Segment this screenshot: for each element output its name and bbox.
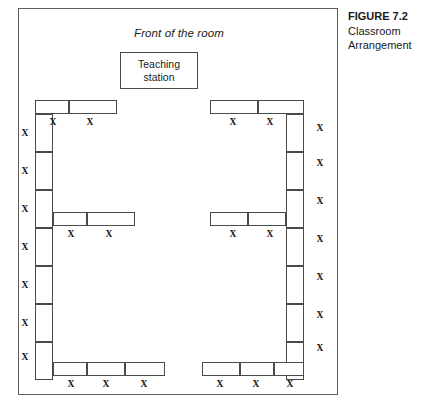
seat-left-col-5: X (21, 281, 29, 291)
seat-left-col-3: X (21, 205, 29, 215)
desk-top-left-2 (69, 100, 117, 114)
desk-right-col-3 (286, 190, 304, 228)
seat-right-col-3: X (316, 197, 324, 207)
desk-mid-left-2 (87, 212, 135, 226)
seat-bottom-left-2: X (102, 380, 110, 390)
desk-top-right-2 (258, 100, 304, 114)
seat-bottom-left-1: X (67, 380, 75, 390)
desk-left-col-2 (35, 152, 53, 190)
desk-top-right-1 (210, 100, 258, 114)
room-frame: Front of the room Teaching station XXXXX… (18, 8, 338, 395)
desk-bottom-right-1 (202, 362, 240, 376)
seat-mid-left-1: X (67, 230, 75, 240)
teaching-station-line-2: station (144, 71, 175, 83)
seat-top-left-1: X (49, 118, 57, 128)
seat-right-col-1: X (316, 124, 324, 134)
desk-left-col-7 (35, 342, 53, 380)
seat-mid-right-2: X (266, 230, 274, 240)
seat-mid-right-1: X (229, 230, 237, 240)
seat-bottom-right-3: X (286, 380, 294, 390)
desk-mid-right-2 (248, 212, 286, 226)
seat-right-col-2: X (316, 159, 324, 169)
desk-top-left-1 (35, 100, 69, 114)
seat-right-col-7: X (316, 344, 324, 354)
desk-right-col-5 (286, 266, 304, 304)
desk-right-col-4 (286, 228, 304, 266)
seat-left-col-4: X (21, 243, 29, 253)
figure-caption-line-2: Arrangement (348, 38, 432, 53)
seat-top-right-1: X (229, 118, 237, 128)
figure-caption-line-1: Classroom (348, 24, 432, 39)
desk-bottom-left-1 (53, 362, 87, 376)
desk-bottom-right-2 (240, 362, 274, 376)
seat-left-col-6: X (21, 319, 29, 329)
seat-right-col-5: X (316, 273, 324, 283)
desk-right-col-1 (286, 114, 304, 152)
seat-top-right-2: X (266, 118, 274, 128)
desk-bottom-left-2 (87, 362, 125, 376)
figure-caption: FIGURE 7.2 Classroom Arrangement (348, 9, 432, 53)
figure-7-2-classroom-arrangement: Front of the room Teaching station XXXXX… (0, 0, 434, 411)
seat-left-col-1: X (21, 129, 29, 139)
seat-right-col-6: X (316, 311, 324, 321)
desk-mid-right-1 (210, 212, 248, 226)
seat-bottom-right-1: X (216, 380, 224, 390)
teaching-station-line-1: Teaching (138, 58, 180, 70)
seat-left-col-2: X (21, 167, 29, 177)
desk-right-col-2 (286, 152, 304, 190)
desk-left-col-3 (35, 190, 53, 228)
seat-bottom-left-3: X (140, 380, 148, 390)
desk-left-col-6 (35, 304, 53, 342)
seat-mid-left-2: X (105, 230, 113, 240)
seat-left-col-7: X (21, 353, 29, 363)
seat-bottom-right-2: X (252, 380, 260, 390)
desk-right-col-6 (286, 304, 304, 342)
desk-mid-left-1 (53, 212, 87, 226)
desk-bottom-right-3 (274, 362, 304, 376)
desk-left-col-4 (35, 228, 53, 266)
teaching-station-box: Teaching station (120, 52, 198, 89)
seat-right-col-4: X (316, 235, 324, 245)
front-of-room-label: Front of the room (19, 27, 339, 39)
figure-caption-title: FIGURE 7.2 (348, 9, 432, 24)
desk-left-col-5 (35, 266, 53, 304)
seat-top-left-2: X (86, 118, 94, 128)
desk-bottom-left-3 (125, 362, 165, 376)
